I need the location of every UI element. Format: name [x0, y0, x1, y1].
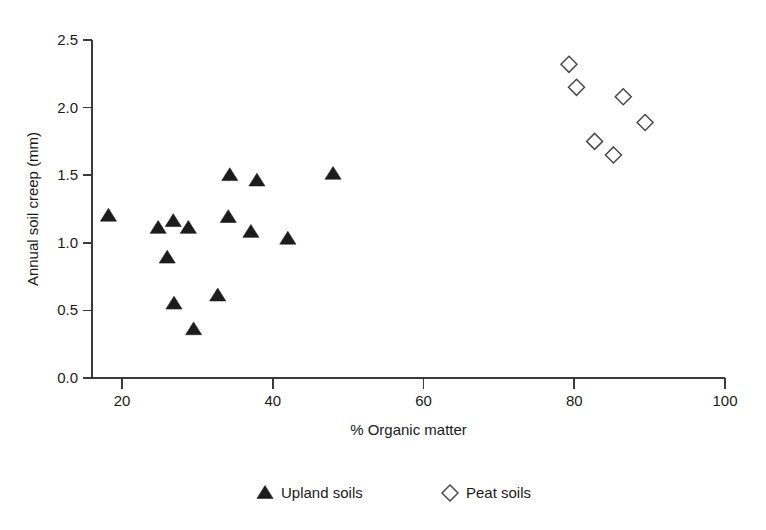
data-point [605, 147, 621, 163]
legend-marker-filled-triangle-icon [257, 486, 273, 499]
data-point [100, 208, 116, 221]
legend-label: Upland soils [281, 484, 363, 501]
data-point [210, 288, 226, 301]
data-point [180, 221, 196, 234]
y-tick-label: 2.0 [57, 99, 78, 116]
data-point [249, 173, 265, 186]
data-point [325, 166, 341, 179]
y-axis: 0.00.51.01.52.02.5 Annual soil creep (mm… [24, 31, 92, 386]
x-axis-ticks: 20406080100 [114, 378, 738, 409]
scatter-plot-figure: 0.00.51.01.52.02.5 Annual soil creep (mm… [0, 0, 766, 530]
x-axis-title: % Organic matter [350, 421, 467, 438]
x-tick-label: 40 [264, 392, 281, 409]
y-tick-label: 1.0 [57, 234, 78, 251]
y-tick-label: 2.5 [57, 31, 78, 48]
data-point [280, 231, 296, 244]
series-upland-soils [100, 166, 341, 334]
chart-legend: Upland soilsPeat soils [257, 484, 531, 501]
data-point [637, 114, 653, 130]
data-point [561, 56, 577, 72]
legend-label: Peat soils [466, 484, 531, 501]
y-axis-title: Annual soil creep (mm) [24, 132, 41, 286]
data-point [615, 89, 631, 105]
y-tick-label: 0.0 [57, 369, 78, 386]
data-point [186, 322, 202, 335]
y-axis-ticks: 0.00.51.01.52.02.5 [57, 31, 92, 386]
x-tick-label: 20 [114, 392, 131, 409]
x-tick-label: 60 [415, 392, 432, 409]
legend-marker-open-diamond-icon [442, 485, 458, 501]
legend-item-upland-soils[interactable]: Upland soils [257, 484, 363, 501]
x-tick-label: 80 [566, 392, 583, 409]
data-point [587, 133, 603, 149]
chart-canvas: 0.00.51.01.52.02.5 Annual soil creep (mm… [0, 0, 766, 530]
data-point [220, 210, 236, 223]
series-peat-soils [561, 56, 653, 163]
data-point [243, 225, 259, 238]
data-point [159, 250, 175, 263]
x-tick-label: 100 [712, 392, 737, 409]
y-tick-label: 0.5 [57, 301, 78, 318]
data-point [569, 79, 585, 95]
data-point [166, 296, 182, 309]
data-point [222, 168, 238, 181]
x-axis: 20406080100 % Organic matter [92, 378, 738, 438]
y-tick-label: 1.5 [57, 166, 78, 183]
data-point [165, 214, 181, 227]
legend-item-peat-soils[interactable]: Peat soils [442, 484, 531, 501]
data-points-layer [100, 56, 653, 334]
data-point [150, 221, 166, 234]
